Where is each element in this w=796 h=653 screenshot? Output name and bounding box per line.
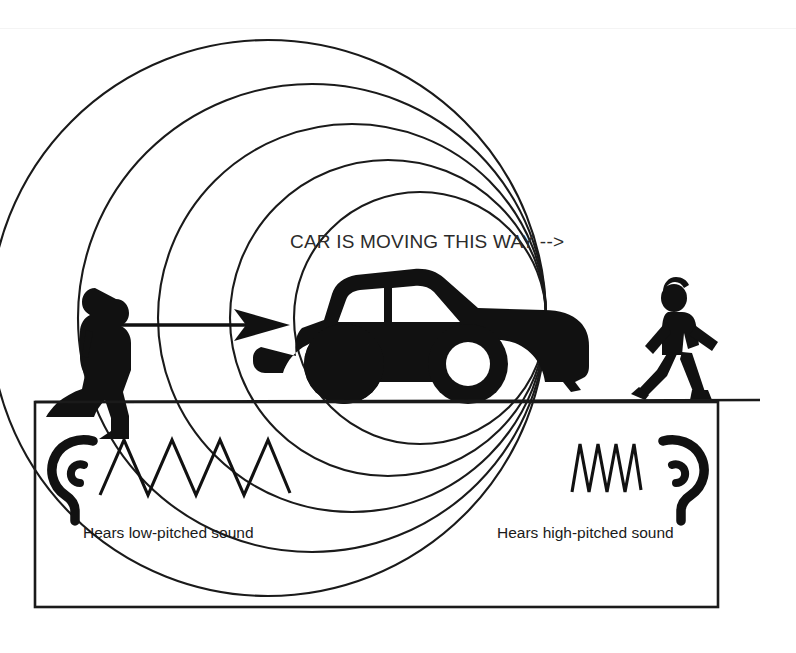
right-observer-label: Hears high-pitched sound <box>497 524 674 541</box>
left-ear-canal <box>71 464 84 483</box>
car-wheel-rear-inner <box>446 342 490 386</box>
low-pitch-waveform <box>100 440 290 495</box>
right-observer-leg-back <box>639 352 677 396</box>
left-observer-label: Hears low-pitched sound <box>83 524 254 541</box>
doppler-effect-figure: CAR IS MOVING THIS WAY --> Hears low-pit… <box>0 0 796 653</box>
motion-caption: CAR IS MOVING THIS WAY --> <box>290 231 564 252</box>
motion-arrow <box>105 309 290 341</box>
left-observer-silhouette <box>46 288 131 439</box>
right-ear-icon <box>663 440 704 521</box>
right-observer-silhouette <box>631 277 718 400</box>
right-observer-foot-front <box>690 390 712 400</box>
left-ear-icon <box>52 440 93 521</box>
right-ear-canal <box>672 464 685 483</box>
doppler-diagram-canvas: CAR IS MOVING THIS WAY --> Hears low-pit… <box>0 0 796 653</box>
car-wheel-front-rim <box>304 324 384 404</box>
high-pitch-waveform <box>572 444 641 492</box>
legend-box <box>35 402 718 607</box>
